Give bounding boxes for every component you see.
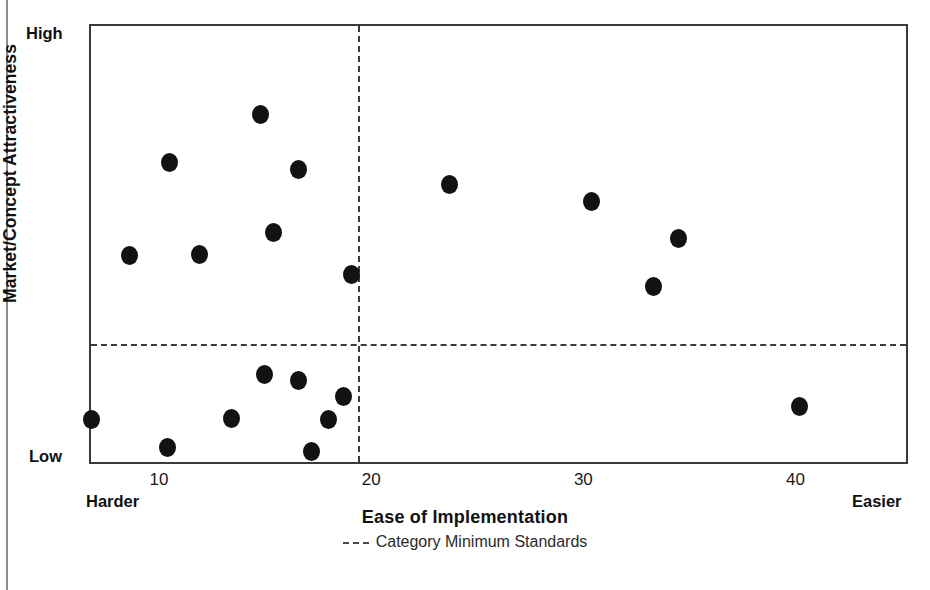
plot-area [91,26,906,462]
chart-legend: Category Minimum Standards [0,533,930,551]
data-point [252,105,269,124]
data-point [191,245,208,264]
dotted-line-icon [343,542,369,544]
data-point [83,410,100,429]
data-point [290,160,307,179]
data-point [583,192,600,211]
data-point [256,365,273,384]
x-axis-tick-label: 30 [574,470,593,490]
data-point [441,175,458,194]
y-axis-title: Market/Concept Attractiveness [0,0,21,364]
data-point [223,409,240,428]
data-point [791,397,808,416]
data-point [159,438,176,457]
scatter-chart-figure: High Low Market/Concept Attractiveness 1… [0,0,930,590]
data-point [335,387,352,406]
legend-item-category-minimum-standards: Category Minimum Standards [343,533,588,551]
data-point [265,223,282,242]
legend-item-label: Category Minimum Standards [376,533,588,551]
x-axis-tick-label: 20 [362,470,381,490]
category-minimum-standards-vertical [358,26,360,462]
x-axis-tick-label: 40 [786,470,805,490]
data-point [121,246,138,265]
data-point [303,442,320,461]
data-point [645,277,662,296]
x-axis-tick-label: 10 [150,470,169,490]
plot-frame [89,24,908,464]
data-point [320,410,337,429]
y-axis-high-label: High [26,24,63,43]
category-minimum-standards-horizontal [91,344,906,346]
data-point [161,153,178,172]
y-axis-low-label: Low [29,447,62,466]
data-point [670,229,687,248]
data-point [290,371,307,390]
x-axis-title: Ease of Implementation [0,507,930,528]
